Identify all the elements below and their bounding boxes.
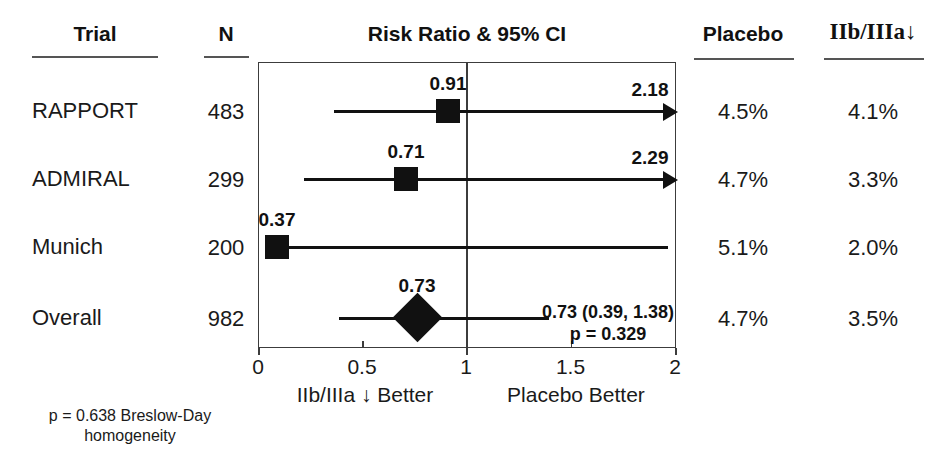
- row-treatment-value: 4.1%: [818, 99, 928, 125]
- row-placebo-value: 4.7%: [688, 306, 798, 332]
- axis-tick-0: [258, 348, 260, 355]
- estimate-label: 0.71: [366, 141, 446, 163]
- overall-annotation-line2: p = 0.329: [528, 323, 688, 346]
- footnote-line1: p = 0.638 Breslow-Day: [20, 406, 240, 426]
- header-placebo-rule: [694, 58, 794, 60]
- row-trial-name: Overall: [32, 305, 202, 331]
- ci-upper-label: 2.29: [622, 147, 678, 169]
- row-trial-name: ADMIRAL: [32, 166, 202, 192]
- overall-annotation-line1: 0.73 (0.39, 1.38): [528, 301, 688, 324]
- axis-caption-left: IIb/IIIa ↓ Better: [260, 383, 470, 407]
- effect-marker-square: [265, 235, 289, 259]
- header-placebo: Placebo: [688, 22, 798, 46]
- axis-tick-1: [466, 348, 468, 355]
- row-treatment-value: 3.3%: [818, 167, 928, 193]
- axis-tick-label-2: 2: [645, 355, 705, 379]
- header-treatment-rule: [824, 58, 924, 60]
- estimate-label: 0.73: [377, 275, 457, 297]
- confidence-interval-line: [268, 246, 668, 249]
- axis-tick-label-1.5: 1.5: [541, 355, 601, 379]
- header-plot-title: Risk Ratio & 95% CI: [258, 22, 676, 46]
- row-n-value: 299: [198, 167, 254, 193]
- forest-plot-figure: Trial N Risk Ratio & 95% CI Placebo IIb/…: [0, 0, 940, 461]
- footnote-line2: homogeneity: [20, 426, 240, 446]
- row-n-value: 200: [198, 235, 254, 261]
- confidence-interval-line: [304, 178, 669, 181]
- row-treatment-value: 3.5%: [818, 306, 928, 332]
- header-n: N: [200, 22, 252, 46]
- row-treatment-value: 2.0%: [818, 235, 928, 261]
- row-n-value: 483: [198, 99, 254, 125]
- row-placebo-value: 5.1%: [688, 235, 798, 261]
- row-placebo-value: 4.7%: [688, 167, 798, 193]
- effect-marker-square: [394, 167, 418, 191]
- axis-tick-2: [675, 348, 677, 355]
- estimate-label: 0.91: [408, 73, 488, 95]
- axis-tick-label-0: 0: [228, 355, 288, 379]
- effect-marker-square: [436, 99, 460, 123]
- axis-tick-label-0.5: 0.5: [332, 355, 392, 379]
- axis-caption-right: Placebo Better: [476, 383, 676, 407]
- header-treatment: IIb/IIIa↓: [818, 19, 928, 45]
- reference-line-1: [466, 62, 468, 348]
- estimate-label: 0.37: [237, 209, 317, 231]
- ci-arrow-right-icon: [663, 171, 678, 189]
- header-n-rule: [204, 56, 249, 58]
- row-trial-name: RAPPORT: [32, 98, 202, 124]
- header-trial-rule: [32, 56, 158, 58]
- row-n-value: 982: [198, 306, 254, 332]
- header-trial: Trial: [32, 22, 158, 46]
- confidence-interval-line: [339, 317, 549, 320]
- axis-tick-label-1: 1: [436, 355, 496, 379]
- axis-tick-0.5: [362, 341, 364, 348]
- row-placebo-value: 4.5%: [688, 99, 798, 125]
- ci-upper-label: 2.18: [622, 79, 678, 101]
- confidence-interval-line: [334, 110, 669, 113]
- ci-arrow-right-icon: [663, 103, 678, 121]
- row-trial-name: Munich: [32, 234, 202, 260]
